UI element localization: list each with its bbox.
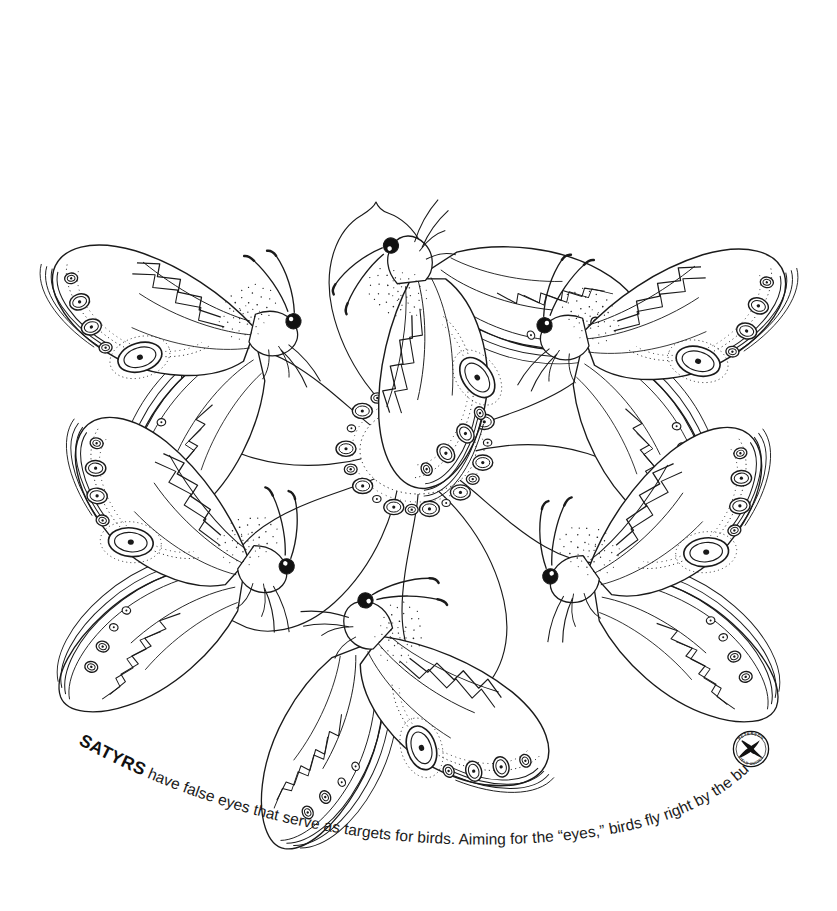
coloring-page: SATYRS have false eyes that serve as tar…: [0, 0, 837, 911]
peterson-field-guides-logo: PETERSON FIELD GUIDES: [729, 727, 773, 771]
butterfly-flower-illustration: [0, 0, 837, 911]
